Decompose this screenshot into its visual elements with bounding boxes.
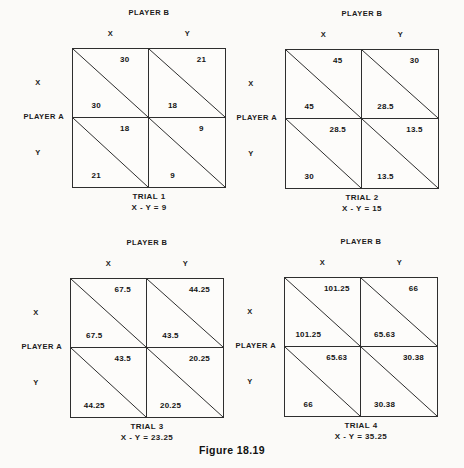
cell-yx: 43.5 44.25: [71, 348, 147, 417]
payoff-top-value: 66: [393, 284, 434, 293]
payoff-matrix: 30 30 21 18 18 21 9 9: [72, 48, 226, 188]
trial-label: TRIAL 1: [72, 192, 226, 201]
payoff-bottom-value: 30.38: [364, 400, 405, 409]
cell-xy: 66 65.63: [361, 278, 437, 347]
player-a-label: PLAYER A: [0, 112, 64, 121]
cell-yx: 18 21: [73, 118, 149, 187]
trial-label: TRIAL 2: [285, 193, 439, 202]
row-label-x: X: [30, 78, 46, 87]
cell-yy: 13.5 13.5: [362, 119, 438, 188]
payoff-top-value: 18: [105, 124, 146, 133]
column-label-y: Y: [361, 258, 438, 267]
cell-yx: 65.63 66: [285, 347, 361, 416]
column-label-x: X: [285, 30, 362, 39]
payoff-matrix: 45 45 30 28.5 28.5 30 13.5 13.5: [285, 49, 439, 189]
difference-equation: X - Y = 9: [72, 203, 226, 212]
trial-1-panel: PLAYER B X Y PLAYER A X Y 30 30 21 18 18…: [0, 8, 230, 218]
player-a-label: PLAYER A: [0, 342, 62, 351]
player-b-label: PLAYER B: [72, 8, 226, 17]
row-label-y: Y: [243, 149, 259, 158]
row-label-y: Y: [242, 377, 258, 386]
cell-xx: 30 30: [73, 49, 149, 118]
payoff-top-value: 65.63: [317, 353, 358, 362]
payoff-bottom-value: 66: [288, 400, 329, 409]
payoff-top-value: 101.25: [317, 284, 358, 293]
payoff-bottom-value: 30: [76, 101, 117, 110]
trial-label: TRIAL 3: [70, 422, 224, 431]
player-b-label: PLAYER B: [70, 238, 224, 247]
player-b-label: PLAYER B: [284, 237, 438, 246]
trial-2-panel: PLAYER B X Y PLAYER A X Y 45 45 30 28.5 …: [213, 9, 443, 219]
payoff-top-value: 30: [394, 56, 435, 65]
row-label-y: Y: [30, 148, 46, 157]
payoff-top-value: 30.38: [393, 353, 434, 362]
player-a-label: PLAYER A: [213, 113, 277, 122]
row-label-x: X: [243, 79, 259, 88]
cell-xx: 101.25 101.25: [285, 278, 361, 347]
difference-equation: X - Y = 15: [285, 204, 439, 213]
cell-xy: 30 28.5: [362, 50, 438, 119]
difference-equation: X - Y = 23.25: [70, 433, 224, 442]
player-b-label: PLAYER B: [285, 9, 439, 18]
column-label-y: Y: [362, 30, 439, 39]
column-label-x: X: [70, 259, 147, 268]
player-a-label: PLAYER A: [212, 341, 276, 350]
payoff-bottom-value: 45: [289, 102, 330, 111]
column-label-x: X: [72, 29, 149, 38]
payoff-bottom-value: 28.5: [365, 102, 406, 111]
payoff-top-value: 13.5: [394, 125, 435, 134]
payoff-bottom-value: 9: [152, 171, 193, 180]
payoff-bottom-value: 43.5: [150, 331, 191, 340]
payoff-bottom-value: 65.63: [364, 330, 405, 339]
trial-label: TRIAL 4: [284, 421, 438, 430]
figure-18-19: PLAYER B X Y PLAYER A X Y 30 30 21 18 18…: [0, 0, 464, 468]
trial-4-panel: PLAYER B X Y PLAYER A X Y 101.25 101.25 …: [212, 237, 442, 447]
payoff-bottom-value: 18: [152, 101, 193, 110]
payoff-bottom-value: 13.5: [365, 172, 406, 181]
payoff-bottom-value: 21: [76, 171, 117, 180]
row-label-x: X: [242, 307, 258, 316]
payoff-bottom-value: 44.25: [74, 401, 115, 410]
cell-yx: 28.5 30: [286, 119, 362, 188]
row-label-y: Y: [28, 378, 44, 387]
figure-caption: Figure 18.19: [0, 444, 464, 456]
trial-3-panel: PLAYER B X Y PLAYER A X Y 67.5 67.5 44.2…: [0, 238, 228, 448]
column-label-x: X: [284, 258, 361, 267]
payoff-top-value: 43.5: [103, 354, 144, 363]
payoff-matrix: 67.5 67.5 44.25 43.5 43.5 44.25 20.25 20…: [70, 278, 224, 418]
payoff-bottom-value: 30: [289, 172, 330, 181]
payoff-top-value: 28.5: [318, 125, 359, 134]
cell-xx: 45 45: [286, 50, 362, 119]
payoff-bottom-value: 67.5: [74, 331, 115, 340]
payoff-bottom-value: 20.25: [150, 401, 191, 410]
payoff-top-value: 30: [105, 55, 146, 64]
payoff-matrix: 101.25 101.25 66 65.63 65.63 66 30.38 30…: [284, 277, 438, 417]
payoff-bottom-value: 101.25: [288, 330, 329, 339]
payoff-top-value: 67.5: [103, 285, 144, 294]
cell-xx: 67.5 67.5: [71, 279, 147, 348]
row-label-x: X: [28, 308, 44, 317]
cell-yy: 30.38 30.38: [361, 347, 437, 416]
payoff-top-value: 45: [318, 56, 359, 65]
difference-equation: X - Y = 35.25: [284, 432, 438, 441]
